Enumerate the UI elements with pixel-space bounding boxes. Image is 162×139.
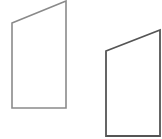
diagram-canvas xyxy=(0,0,162,139)
quadrilateral-right xyxy=(106,30,160,136)
quadrilateral-left xyxy=(12,1,66,108)
